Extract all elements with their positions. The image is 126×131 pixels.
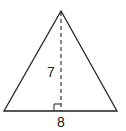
- triangle-diagram: [0, 0, 126, 131]
- triangle-figure: 7 8: [0, 0, 126, 131]
- right-angle-marker: [54, 104, 61, 111]
- base-label: 8: [57, 115, 65, 129]
- height-label: 7: [47, 65, 55, 79]
